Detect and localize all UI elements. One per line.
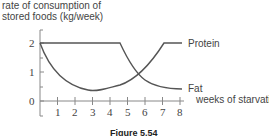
fat-line — [40, 43, 182, 89]
chart-plot: 2 1 0 1 2 3 4 5 6 7 8 Protein Fat weeks … — [0, 0, 269, 136]
x-tick-4: 4 — [107, 106, 113, 118]
x-tick-3: 3 — [90, 106, 96, 118]
protein-line — [40, 43, 182, 91]
figure-caption: Figure 5.54 — [110, 128, 158, 136]
x-tick-6: 6 — [142, 106, 148, 118]
x-tick-1: 1 — [55, 106, 61, 118]
x-axis-label: weeks of starvation — [195, 94, 269, 105]
protein-label: Protein — [188, 38, 220, 49]
y-tick-2: 2 — [29, 37, 35, 49]
x-tick-labels: 1 2 3 4 5 6 7 8 — [55, 106, 183, 118]
y-tick-0: 0 — [29, 95, 35, 107]
x-tick-7: 7 — [160, 106, 166, 118]
x-tick-5: 5 — [125, 106, 131, 118]
x-tick-8: 8 — [177, 106, 183, 118]
fat-label: Fat — [188, 83, 203, 94]
y-tick-1: 1 — [29, 66, 35, 78]
x-tick-2: 2 — [72, 106, 78, 118]
